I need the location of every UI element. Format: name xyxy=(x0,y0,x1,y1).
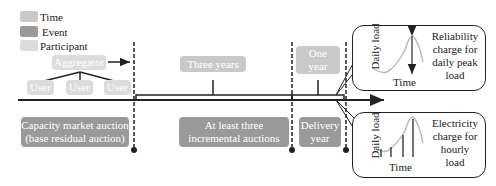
incremental-auctions-box: At least three incremental auctions xyxy=(179,117,289,147)
incremental-line2: incremental auctions xyxy=(188,132,279,145)
legend-swatch-time xyxy=(20,11,38,22)
top-xlabel: Time xyxy=(393,76,416,89)
capacity-auction-box: Capacity market auction (base residual a… xyxy=(21,117,129,147)
legend-label-participant: Participant xyxy=(40,40,88,52)
aggregator-box: Aggregator xyxy=(52,55,106,70)
bottom-xlabel: Time xyxy=(389,161,412,174)
bottom-ylabel: Daily load xyxy=(369,112,382,160)
one-year-line2: year xyxy=(309,60,328,73)
user-box: User xyxy=(27,80,54,95)
user-box: User xyxy=(66,80,93,95)
one-year-line1: One xyxy=(309,47,327,60)
legend-swatch-event xyxy=(20,26,38,37)
user-box: User xyxy=(104,80,131,95)
capacity-line2: (base residual auction) xyxy=(25,132,125,145)
delivery-year-box: Delivery year xyxy=(299,117,341,147)
delivery-line2: year xyxy=(311,132,330,145)
three-years-box: Three years xyxy=(180,56,246,72)
legend-label-time: Time xyxy=(40,11,63,23)
incremental-line1: At least three xyxy=(205,119,264,132)
electricity-charge-text: Electricity charge for hourly load xyxy=(425,117,485,169)
top-ylabel: Daily load xyxy=(369,23,382,71)
delivery-line1: Delivery xyxy=(301,119,339,132)
one-year-box: One year xyxy=(296,46,340,74)
legend-label-event: Event xyxy=(42,26,68,38)
capacity-line1: Capacity market auction xyxy=(21,119,129,132)
reliability-charge-text: Reliability charge for daily peak load xyxy=(425,30,485,82)
electricity-charge-panel: Daily load Time Electricity charge for h… xyxy=(352,112,486,178)
reliability-charge-panel: Daily load Time Reliability charge for d… xyxy=(352,25,486,91)
legend-swatch-participant xyxy=(20,40,38,51)
